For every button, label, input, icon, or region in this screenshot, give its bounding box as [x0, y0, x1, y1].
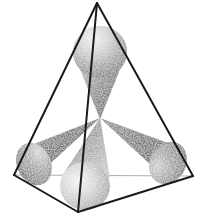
tetrahedron-cones-illustration	[0, 0, 205, 217]
figure-canvas	[0, 0, 205, 217]
